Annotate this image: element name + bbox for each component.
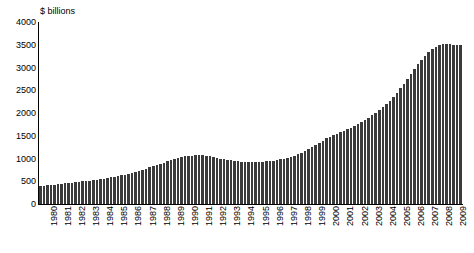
x-tick-label: 1996 [276, 206, 285, 226]
x-tick-label: 2009 [459, 206, 468, 226]
y-tick-label: 0 [31, 200, 36, 209]
y-tick-label: 3000 [16, 63, 36, 72]
y-axis-title: $ billions [40, 6, 75, 16]
x-tick-label: 1980 [50, 206, 59, 226]
y-tick-label: 3500 [16, 40, 36, 49]
x-tick-label: 1990 [191, 206, 200, 226]
x-tick-label: 2001 [346, 206, 355, 226]
x-tick-label: 2008 [445, 206, 454, 226]
x-tick-label: 2005 [403, 206, 412, 226]
y-tick-label: 1000 [16, 154, 36, 163]
x-tick-label: 1998 [304, 206, 313, 226]
y-tick-label: 2500 [16, 86, 36, 95]
x-tick-label: 1987 [149, 206, 158, 226]
x-tick-label: 1989 [177, 206, 186, 226]
x-tick-label: 1985 [120, 206, 129, 226]
x-tick-label: 1986 [134, 206, 143, 226]
x-axis-tick-labels: 1980198119821983198419851986198719881989… [39, 206, 463, 252]
x-tick-label: 1981 [64, 206, 73, 226]
x-tick-label: 2002 [361, 206, 370, 226]
x-tick-label: 2003 [375, 206, 384, 226]
y-tick-label: 2000 [16, 109, 36, 118]
bar-chart: $ billions 05001000150020002500300035004… [0, 0, 474, 253]
x-tick-label: 1999 [318, 206, 327, 226]
x-tick-label: 1993 [233, 206, 242, 226]
x-axis-line [38, 204, 463, 205]
bar-series [39, 22, 463, 204]
y-tick-label: 500 [21, 177, 36, 186]
x-tick-label: 2000 [332, 206, 341, 226]
x-tick-label: 1984 [106, 206, 115, 226]
x-tick-label: 2004 [389, 206, 398, 226]
x-tick-label: 1991 [205, 206, 214, 226]
x-tick-label: 2007 [431, 206, 440, 226]
x-tick-label: 1992 [219, 206, 228, 226]
x-tick-label: 2006 [417, 206, 426, 226]
x-tick-label: 1988 [163, 206, 172, 226]
plot-area [39, 22, 463, 204]
y-tick-label: 1500 [16, 131, 36, 140]
x-tick-label: 1997 [290, 206, 299, 226]
bar [459, 45, 463, 204]
x-tick-label: 1983 [92, 206, 101, 226]
x-tick-label: 1982 [78, 206, 87, 226]
y-axis-tick-labels: 05001000150020002500300035004000 [0, 22, 36, 204]
x-tick-label: 1995 [262, 206, 271, 226]
x-tick-label: 1994 [247, 206, 256, 226]
y-tick-label: 4000 [16, 18, 36, 27]
